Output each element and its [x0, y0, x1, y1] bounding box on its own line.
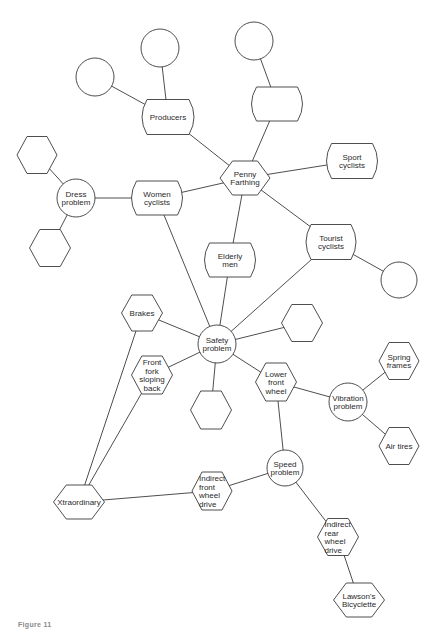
barrel-shape [252, 87, 303, 121]
node-elderly-men: Elderlymen [205, 243, 256, 277]
hexagon-shape [282, 305, 323, 342]
node-hex-bottom [191, 391, 232, 429]
circle-shape [235, 22, 273, 60]
node-label: cyclists [144, 198, 170, 207]
node-label: problem [271, 468, 300, 477]
node-hex-ul [17, 137, 57, 174]
circle-shape [76, 58, 114, 96]
node-air-tires: Air tires [379, 428, 419, 465]
node-label: Brakes [130, 309, 155, 318]
node-indirect-front: Indirectfrontwheeldrive [192, 472, 232, 510]
node-dress-problem: Dressproblem [57, 179, 95, 217]
node-indirect-rear: Indirectrearwheeldrive [318, 519, 359, 556]
node-barrel-blank [252, 87, 303, 121]
node-label: back [144, 384, 162, 393]
edge-front_fork-to-xtraordinary [79, 375, 152, 502]
edge-brakes-to-xtraordinary [79, 313, 142, 502]
node-label: Xtraordinary [57, 498, 101, 507]
node-safety-problem: Safetyproblem [198, 325, 236, 363]
node-c-right [381, 262, 417, 298]
node-sport-cyclists: Sportcyclists [327, 144, 378, 179]
circle-shape [381, 262, 417, 298]
node-c-topright [235, 22, 273, 60]
node-front-fork: Frontforkslopingback [132, 356, 173, 394]
node-speed-problem: Speedproblem [267, 450, 303, 486]
node-label: problem [203, 344, 232, 353]
hexagon-shape [17, 137, 57, 174]
node-hex-ll [30, 230, 71, 267]
figure-caption: Figure 11 [18, 621, 51, 628]
node-c-top [141, 29, 179, 67]
node-label: Producers [150, 113, 186, 122]
node-label: wheel [265, 387, 287, 396]
node-label: Farthing [230, 178, 259, 187]
node-label: drive [325, 546, 343, 555]
node-lawsons-bicyclette: Lawson'sBicyclette [334, 583, 385, 617]
node-label: problem [334, 402, 363, 411]
hexagon-shape [30, 230, 71, 267]
node-penny-farthing: PennyFarthing [220, 161, 270, 195]
node-label: problem [62, 198, 91, 207]
node-label: men [222, 260, 238, 269]
node-label: cyclists [318, 242, 344, 251]
node-label: Bicyclette [342, 600, 377, 609]
node-label: cyclists [339, 161, 365, 170]
node-spring-frames: Springframes [379, 343, 419, 380]
node-tourist-cyclists: Touristcyclists [306, 225, 356, 260]
node-producers: Producers [142, 100, 194, 135]
node-label: drive [199, 500, 217, 509]
circle-shape [141, 29, 179, 67]
concept-diagram: ProducersPennyFarthingSportcyclistsWomen… [0, 0, 436, 637]
node-label: Air tires [385, 442, 412, 451]
node-women-cyclists: Womencyclists [132, 181, 183, 215]
node-brakes: Brakes [122, 295, 163, 331]
node-c-topleft [76, 58, 114, 96]
node-vibration-problem: Vibrationproblem [329, 383, 367, 421]
node-layer: ProducersPennyFarthingSportcyclistsWomen… [17, 22, 419, 617]
node-lower-front-wheel: Lowerfrontwheel [256, 363, 297, 401]
hexagon-shape [191, 391, 232, 429]
node-label: frames [387, 361, 411, 370]
node-hex-right [282, 305, 323, 342]
node-xtraordinary: Xtraordinary [54, 485, 105, 519]
